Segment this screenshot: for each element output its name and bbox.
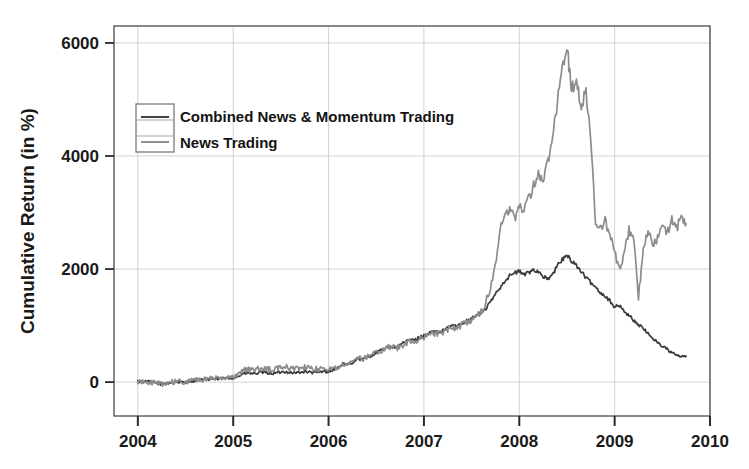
cumulative-return-line-chart: 0200040006000 20042005200620072008200920… [0, 0, 749, 469]
y-tick-label: 6000 [61, 34, 99, 53]
x-tick-label: 2006 [310, 432, 348, 451]
y-tick-label: 4000 [61, 147, 99, 166]
x-tick-label: 2004 [119, 432, 157, 451]
chart-figure: 0200040006000 20042005200620072008200920… [0, 0, 749, 469]
y-tick-label: 0 [90, 373, 99, 392]
x-tick-label: 2010 [691, 432, 729, 451]
chart-background [0, 0, 749, 469]
y-tick-label: 2000 [61, 260, 99, 279]
legend-label-news-trading: News Trading [180, 134, 278, 151]
legend-label-combined-news-momentum: Combined News & Momentum Trading [180, 108, 454, 125]
x-tick-label: 2007 [405, 432, 443, 451]
legend-box [136, 104, 174, 152]
y-axis-label: Cumulative Return (in %) [17, 108, 38, 334]
x-tick-label: 2005 [214, 432, 252, 451]
x-tick-label: 2009 [596, 432, 634, 451]
x-tick-label: 2008 [500, 432, 538, 451]
